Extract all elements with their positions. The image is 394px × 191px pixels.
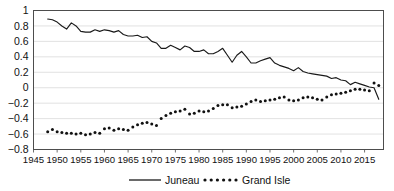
data-point-grand-isle: [254, 99, 257, 102]
gridlines-group: [34, 26, 384, 134]
data-point-grand-isle: [325, 95, 328, 98]
series-markers-grand-isle: [46, 82, 380, 137]
x-tick-label: 1970: [141, 154, 162, 165]
legend-label-grand-isle: Grand Isle: [242, 174, 291, 186]
data-point-grand-isle: [283, 95, 286, 98]
data-point-grand-isle: [46, 130, 49, 133]
data-point-grand-isle: [79, 132, 82, 135]
data-point-grand-isle: [349, 89, 352, 92]
x-tick-label: 1945: [23, 154, 44, 165]
data-point-grand-isle: [226, 103, 229, 106]
data-point-grand-isle: [60, 131, 63, 134]
y-tick-label: −0.4: [8, 112, 29, 124]
x-tick-label: 1965: [117, 154, 138, 165]
x-tick-label: 1980: [188, 154, 209, 165]
data-point-grand-isle: [93, 131, 96, 134]
legend-marker-grand-isle: [203, 178, 237, 181]
y-tick-label: −0.6: [8, 128, 29, 140]
data-point-grand-isle: [240, 105, 243, 108]
legend-label-juneau: Juneau: [165, 174, 200, 186]
x-tick-label: 1955: [70, 154, 91, 165]
data-point-grand-isle: [339, 92, 342, 95]
data-point-grand-isle: [306, 95, 309, 98]
y-tick-label: 1: [23, 4, 29, 16]
y-tick-label: −0.2: [8, 97, 29, 109]
legend-dot: [216, 178, 219, 181]
legend-dot: [210, 178, 213, 181]
y-axis-tick-labels: 10.80.60.40.20−0.2−0.4−0.6−0.8: [8, 4, 29, 155]
data-point-grand-isle: [198, 109, 201, 112]
y-tick-label: 0.8: [14, 20, 29, 32]
data-point-grand-isle: [103, 127, 106, 130]
data-point-grand-isle: [287, 99, 290, 102]
data-point-grand-isle: [70, 132, 73, 135]
data-point-grand-isle: [183, 108, 186, 111]
data-point-grand-isle: [264, 99, 267, 102]
data-point-grand-isle: [169, 112, 172, 115]
data-point-grand-isle: [316, 98, 319, 101]
x-tick-label: 2005: [307, 154, 328, 165]
data-point-grand-isle: [221, 103, 224, 106]
x-tick-label: 2015: [354, 154, 375, 165]
data-point-grand-isle: [117, 127, 120, 130]
data-point-grand-isle: [160, 117, 163, 120]
data-point-grand-isle: [358, 88, 361, 91]
data-point-grand-isle: [292, 99, 295, 102]
data-point-grand-isle: [155, 124, 158, 127]
data-point-grand-isle: [302, 96, 305, 99]
y-tick-label: 0.2: [14, 66, 29, 78]
data-point-grand-isle: [259, 100, 262, 103]
data-point-grand-isle: [127, 129, 130, 132]
data-point-grand-isle: [146, 121, 149, 124]
legend-dot: [228, 178, 231, 181]
x-tick-label: 1960: [94, 154, 115, 165]
y-tick-label: 0: [23, 81, 29, 93]
x-tick-label: 1990: [236, 154, 257, 165]
data-point-grand-isle: [207, 109, 210, 112]
data-point-grand-isle: [188, 112, 191, 115]
line-chart: 10.80.60.40.20−0.2−0.4−0.6−0.8 194519501…: [0, 0, 394, 191]
data-point-grand-isle: [141, 122, 144, 125]
data-point-grand-isle: [193, 112, 196, 115]
x-axis-tick-labels: 1945195019551960196519701975198019851990…: [23, 154, 375, 165]
data-point-grand-isle: [122, 128, 125, 131]
y-tick-label: 0.6: [14, 35, 29, 47]
legend-dot: [203, 178, 206, 181]
data-point-grand-isle: [164, 114, 167, 117]
data-point-grand-isle: [216, 104, 219, 107]
data-point-grand-isle: [273, 98, 276, 101]
data-point-grand-isle: [112, 129, 115, 132]
x-tick-label: 1950: [46, 154, 67, 165]
data-point-grand-isle: [321, 99, 324, 102]
x-tick-label: 1975: [165, 154, 186, 165]
data-point-grand-isle: [311, 96, 314, 99]
data-point-grand-isle: [150, 123, 153, 126]
data-point-grand-isle: [212, 107, 215, 110]
data-point-grand-isle: [84, 133, 87, 136]
data-point-grand-isle: [297, 99, 300, 102]
data-point-grand-isle: [250, 100, 253, 103]
data-point-grand-isle: [174, 110, 177, 113]
data-point-grand-isle: [231, 106, 234, 109]
data-point-grand-isle: [51, 128, 54, 131]
chart-legend: Juneau Grand Isle: [129, 174, 291, 186]
data-point-grand-isle: [56, 130, 59, 133]
data-point-grand-isle: [377, 84, 380, 87]
y-tick-label: 0.4: [14, 50, 29, 62]
plot-area-frame: [34, 11, 384, 150]
data-point-grand-isle: [330, 93, 333, 96]
data-point-grand-isle: [108, 126, 111, 129]
data-point-grand-isle: [98, 132, 101, 135]
x-tick-label: 1985: [212, 154, 233, 165]
data-point-grand-isle: [75, 133, 78, 136]
data-point-grand-isle: [245, 102, 248, 105]
data-point-grand-isle: [136, 123, 139, 126]
data-point-grand-isle: [202, 110, 205, 113]
data-point-grand-isle: [235, 106, 238, 109]
data-point-grand-isle: [278, 96, 281, 99]
legend-dot: [222, 178, 225, 181]
chart-figure: 10.80.60.40.20−0.2−0.4−0.6−0.8 194519501…: [0, 0, 394, 191]
series-line-juneau: [48, 19, 379, 99]
data-point-grand-isle: [373, 82, 376, 85]
x-tick-label: 2000: [283, 154, 304, 165]
